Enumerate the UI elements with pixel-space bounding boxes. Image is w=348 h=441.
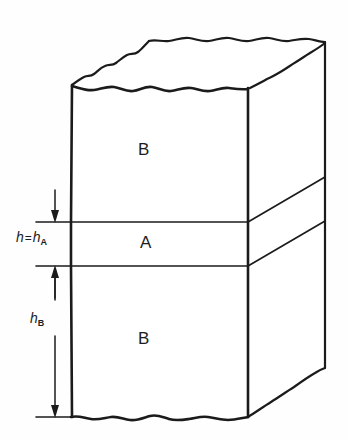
dim-ha-subscript: A (41, 237, 48, 247)
layer-label-b-top: B (138, 141, 150, 158)
figure-container: B A B h=hA hB (0, 0, 348, 441)
dim-hb-subscript: B (38, 318, 45, 328)
face-fills (72, 40, 325, 417)
dim-hb-lower-arrowhead (51, 405, 59, 418)
dim-ha-symbol: h (33, 229, 41, 245)
dimension-label-h-equals-ha: h=hA (16, 230, 47, 247)
dim-hb-symbol: h (30, 310, 38, 326)
dim-h-symbol: h (16, 229, 24, 245)
side-face-fill (248, 42, 325, 417)
block-diagram-svg (0, 0, 348, 441)
front-left-vertical-edge (71, 85, 72, 417)
layer-label-b-bottom: B (138, 330, 150, 347)
dim-ha-upper-arrowhead (51, 210, 59, 223)
layer-label-a-middle: A (140, 234, 152, 251)
dim-equals-sign: = (24, 231, 33, 245)
front-face-fill (72, 85, 248, 417)
dimension-arrows-hb (51, 272, 59, 418)
dimension-label-hb: hB (30, 311, 44, 328)
